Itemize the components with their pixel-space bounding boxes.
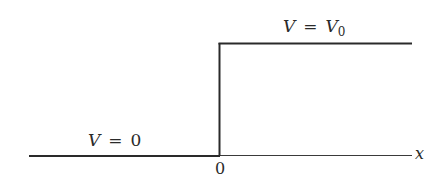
origin-label: 0 [215, 159, 225, 178]
label-right-region: V=V0 [283, 16, 345, 39]
label-left-region: V=0 [88, 130, 141, 150]
x-axis-label: x [415, 144, 424, 163]
potential-step-diagram: V=V0 V=0 0 x [0, 0, 445, 178]
